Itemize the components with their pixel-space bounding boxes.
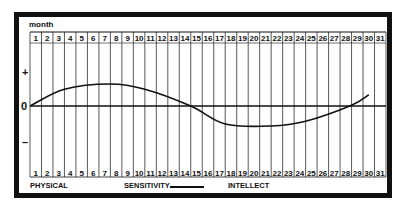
bottom-day-label: 31 <box>376 169 385 178</box>
bottom-day-label: 19 <box>238 169 247 178</box>
bottom-day-label: 28 <box>341 169 350 178</box>
zero-axis-label: 0 <box>21 100 27 112</box>
top-day-label: 22 <box>272 34 281 43</box>
top-day-label: 10 <box>135 34 144 43</box>
top-day-label: 1 <box>34 34 39 43</box>
legend-sensitivity: SENSITIVITY <box>124 181 170 190</box>
bottom-day-label: 29 <box>353 169 362 178</box>
top-day-label: 19 <box>238 34 247 43</box>
top-day-label: 3 <box>56 34 61 43</box>
bottom-day-label: 13 <box>169 169 178 178</box>
bottom-day-label: 22 <box>272 169 281 178</box>
bottom-day-label: 24 <box>295 169 304 178</box>
bottom-day-label: 9 <box>125 169 130 178</box>
top-day-label: 15 <box>192 34 201 43</box>
top-day-label: 12 <box>158 34 167 43</box>
plus-axis-label: + <box>22 66 28 78</box>
bottom-day-label: 21 <box>261 169 270 178</box>
sensitivity-curve <box>30 84 369 126</box>
top-day-label: 28 <box>341 34 350 43</box>
top-day-label: 29 <box>353 34 362 43</box>
top-day-label: 21 <box>261 34 270 43</box>
bottom-day-label: 4 <box>68 169 73 178</box>
bottom-day-label: 18 <box>227 169 236 178</box>
bottom-day-label: 30 <box>364 169 373 178</box>
bottom-day-label: 25 <box>307 169 316 178</box>
biorhythm-chart: 1122334455667788991010111112121313141415… <box>0 0 402 210</box>
bottom-day-label: 26 <box>318 169 327 178</box>
bottom-day-label: 15 <box>192 169 201 178</box>
bottom-day-label: 12 <box>158 169 167 178</box>
bottom-day-label: 17 <box>215 169 224 178</box>
top-day-label: 25 <box>307 34 316 43</box>
bottom-day-label: 3 <box>56 169 61 178</box>
bottom-day-label: 14 <box>181 169 190 178</box>
top-day-label: 24 <box>295 34 304 43</box>
bottom-day-label: 8 <box>114 169 119 178</box>
bottom-day-label: 5 <box>79 169 84 178</box>
minus-axis-label: – <box>22 136 28 148</box>
top-day-label: 26 <box>318 34 327 43</box>
top-day-label: 16 <box>204 34 213 43</box>
legend-physical: PHYSICAL <box>30 181 68 190</box>
bottom-day-label: 1 <box>34 169 39 178</box>
top-day-label: 2 <box>45 34 50 43</box>
bottom-day-label: 6 <box>91 169 96 178</box>
top-day-label: 14 <box>181 34 190 43</box>
top-day-label: 11 <box>146 34 155 43</box>
bottom-day-label: 7 <box>102 169 107 178</box>
bottom-day-label: 27 <box>330 169 339 178</box>
top-day-label: 7 <box>102 34 107 43</box>
bottom-day-label: 10 <box>135 169 144 178</box>
top-day-label: 6 <box>91 34 96 43</box>
top-day-label: 27 <box>330 34 339 43</box>
top-day-label: 23 <box>284 34 293 43</box>
top-day-label: 4 <box>68 34 73 43</box>
legend-sensitivity-line-sample <box>170 186 204 188</box>
top-day-label: 13 <box>169 34 178 43</box>
top-day-label: 17 <box>215 34 224 43</box>
legend-intellect: INTELLECT <box>228 181 269 190</box>
top-day-label: 30 <box>364 34 373 43</box>
top-day-label: 9 <box>125 34 130 43</box>
top-day-label: 31 <box>376 34 385 43</box>
top-day-label: 5 <box>79 34 84 43</box>
bottom-day-label: 16 <box>204 169 213 178</box>
top-day-label: 20 <box>249 34 258 43</box>
bottom-day-label: 11 <box>146 169 155 178</box>
top-day-label: 18 <box>227 34 236 43</box>
bottom-day-label: 23 <box>284 169 293 178</box>
bottom-day-label: 20 <box>249 169 258 178</box>
bottom-day-label: 2 <box>45 169 50 178</box>
top-day-label: 8 <box>114 34 119 43</box>
